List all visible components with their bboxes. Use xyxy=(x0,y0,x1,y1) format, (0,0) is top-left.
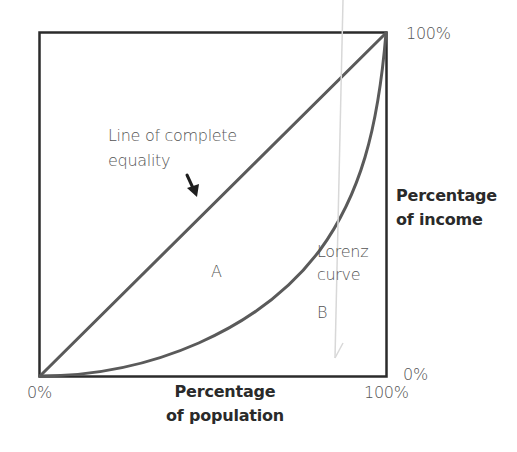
y-axis-label-line2: of income xyxy=(396,210,483,230)
equality-label-line1: Line of complete xyxy=(108,126,237,146)
area-a-label: A xyxy=(211,262,222,282)
x-axis-label-line1: Percentage xyxy=(150,382,300,402)
area-b-label: B xyxy=(317,303,327,323)
arrow-icon xyxy=(187,175,199,197)
y-tick-0: 0% xyxy=(403,365,428,385)
x-tick-100: 100% xyxy=(364,383,409,403)
y-axis-label-line1: Percentage xyxy=(396,186,497,206)
equality-line xyxy=(40,33,386,376)
y-tick-100: 100% xyxy=(406,24,451,44)
lorenz-label-line2: curve xyxy=(317,265,360,285)
equality-label-line2: equality xyxy=(108,151,170,171)
scan-artifact xyxy=(335,0,343,358)
x-axis-label-line2: of population xyxy=(140,406,310,426)
x-tick-0: 0% xyxy=(27,383,52,403)
lorenz-label-line1: Lorenz xyxy=(317,242,368,262)
scan-artifact-2 xyxy=(335,343,343,358)
